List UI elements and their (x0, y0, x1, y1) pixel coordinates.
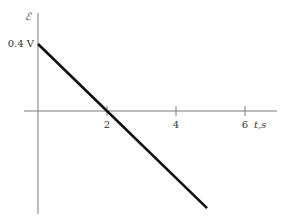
x-axis-label: t,s (254, 119, 266, 130)
x-tick-label: 4 (173, 119, 179, 130)
y-axis-label: ℰ (25, 11, 32, 22)
emf-vs-time-chart: 2460.4 V ℰ t,s (0, 0, 283, 220)
x-tick-label: 2 (104, 119, 110, 130)
y-tick-label: 0.4 V (8, 38, 35, 49)
series-line-emf (38, 44, 207, 208)
x-tick-label: 6 (242, 119, 248, 130)
